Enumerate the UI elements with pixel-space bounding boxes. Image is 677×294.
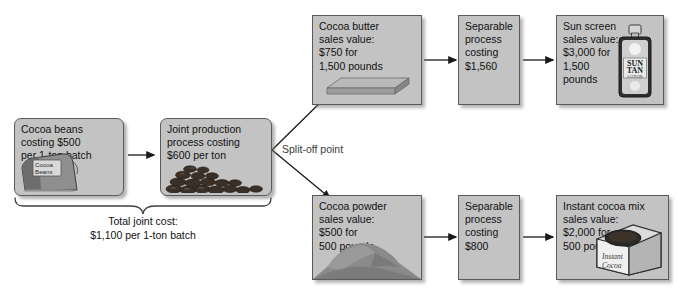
box-cocoa-butter-text: Cocoa butter sales value: $750 for 1,500… xyxy=(319,20,418,73)
box-separable-process-upper-text: Separable process costing $1,560 xyxy=(465,20,516,73)
butter-bar-icon xyxy=(325,66,411,96)
instant-cocoa-tin-icon: Instant Cocoa xyxy=(593,223,665,277)
sun-tan-lotion-bottle-icon: SUN TAN LOTION xyxy=(613,24,657,100)
box-instant-cocoa-mix[interactable]: Instant cocoa mix sales value: $2,000 fo… xyxy=(556,195,669,280)
box-cocoa-powder[interactable]: Cocoa powder sales value: $500 for 500 p… xyxy=(312,195,422,280)
split-off-point-label: Split-off point xyxy=(282,143,343,155)
box-separable-process-lower[interactable]: Separable process costing $800 xyxy=(458,195,520,280)
arrow-split-lower xyxy=(272,150,330,198)
cocoa-bean-pile-icon xyxy=(164,159,268,193)
box-joint-production-process-text: Joint production process costing $600 pe… xyxy=(167,123,268,163)
lotion-label-lotion: LOTION xyxy=(628,74,643,79)
svg-text:Beans: Beans xyxy=(35,168,53,175)
joint-cost-brace xyxy=(15,198,271,214)
box-separable-process-lower-text: Separable process costing $800 xyxy=(465,200,516,253)
total-joint-cost-note: Total joint cost: $1,100 per 1-ton batch xyxy=(8,214,278,242)
cocoa-powder-mound-icon xyxy=(313,237,421,279)
box-joint-production-process[interactable]: Joint production process costing $600 pe… xyxy=(160,118,272,196)
cocoa-beans-sack-icon: Cocoa Beans xyxy=(19,150,83,192)
box-sun-screen[interactable]: Sun screen sales value: $3,000 for 1,500… xyxy=(556,15,664,105)
diagram-canvas: Cocoa beans costing $500 per 1-ton batch… xyxy=(0,0,677,294)
tin-label-line1: Instant xyxy=(601,252,624,261)
box-separable-process-upper[interactable]: Separable process costing $1,560 xyxy=(458,15,520,105)
box-cocoa-beans[interactable]: Cocoa beans costing $500 per 1-ton batch… xyxy=(14,118,124,196)
box-cocoa-butter[interactable]: Cocoa butter sales value: $750 for 1,500… xyxy=(312,15,422,105)
tin-label-line2: Cocoa xyxy=(602,261,622,270)
